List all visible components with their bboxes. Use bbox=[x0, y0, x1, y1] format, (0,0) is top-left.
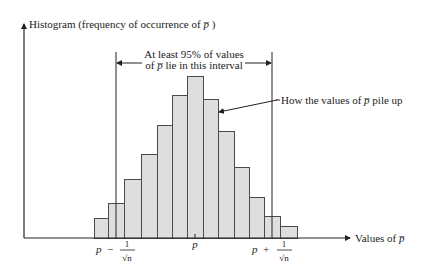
svg-text:p: p bbox=[95, 243, 102, 255]
histogram-bar bbox=[142, 155, 158, 239]
histogram-bar bbox=[125, 180, 142, 239]
histogram-chart: Histogram (frequency of occurrence of p̅… bbox=[0, 0, 422, 273]
svg-text:+: + bbox=[263, 243, 269, 255]
tick-label-left: p − 1 √n bbox=[95, 239, 135, 263]
svg-text:√n: √n bbox=[279, 253, 289, 263]
histogram-bar bbox=[173, 96, 188, 239]
histogram-bar bbox=[219, 132, 235, 239]
svg-text:√n: √n bbox=[122, 253, 132, 263]
pointer-arrow bbox=[219, 100, 277, 112]
histogram-bar bbox=[235, 168, 250, 239]
y-axis-label: Histogram (frequency of occurrence of p̅… bbox=[29, 18, 216, 31]
histogram-bars bbox=[95, 77, 298, 239]
x-axis-label: Values of p̅ bbox=[355, 232, 405, 244]
histogram-bar bbox=[158, 126, 173, 239]
histogram-bar bbox=[250, 198, 265, 239]
histogram-bar bbox=[204, 100, 219, 239]
histogram-bar bbox=[281, 227, 298, 239]
svg-text:1: 1 bbox=[125, 239, 130, 249]
interval-label-line2: of p̅ lie in this interval bbox=[145, 59, 242, 71]
histogram-bar bbox=[188, 77, 204, 239]
tick-label-right: p + 1 √n bbox=[251, 239, 292, 263]
pile-up-label: How the values of p̅ pile up bbox=[281, 94, 403, 106]
histogram-bar bbox=[95, 219, 109, 239]
svg-text:p: p bbox=[251, 243, 258, 255]
tick-label-center: p bbox=[191, 238, 198, 250]
svg-text:−: − bbox=[107, 243, 113, 255]
svg-text:1: 1 bbox=[282, 239, 287, 249]
